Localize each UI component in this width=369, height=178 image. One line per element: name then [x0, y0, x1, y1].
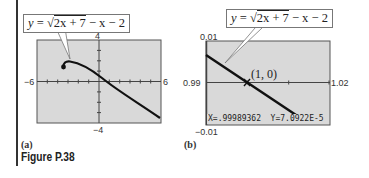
ymin-label-b: −0.01 [195, 127, 218, 137]
panel-label-b: (b) [184, 139, 196, 150]
equation-callout-b: y = √2x + 7 − x − 2 [226, 9, 333, 28]
figure-caption: Figure P.38 [21, 150, 75, 164]
eq-radicand: 2x + 7 [54, 15, 86, 30]
panel-label-a: (a) [21, 139, 33, 150]
eq-lhs: y [28, 16, 34, 30]
eq-lhs: y [231, 11, 237, 25]
eq-equals: = [37, 16, 44, 30]
ymax-label-a: 4 [95, 31, 100, 41]
point-label: (1, 0) [251, 67, 277, 82]
xmin-label-b: 0.99 [183, 78, 201, 88]
trace-readout: X=.99989362 Y=7.0922E-5 [208, 114, 324, 124]
equation-callout-a: y = √2x + 7 − x − 2 [23, 14, 130, 33]
eq-equals: = [240, 11, 247, 25]
eq-tail: − x − 2 [292, 11, 328, 25]
ymax-label-b: 0.01 [200, 32, 218, 42]
eq-radicand: 2x + 7 [257, 10, 289, 25]
xmax-label-a: 6 [163, 77, 168, 87]
xmin-label-a: −6 [24, 77, 34, 87]
sqrt-symbol: √ [47, 16, 54, 30]
graph-a [37, 28, 161, 123]
eq-tail: − x − 2 [89, 16, 125, 30]
ymin-label-a: −4 [93, 125, 103, 135]
sqrt-symbol: √ [250, 11, 257, 25]
xmax-label-b: 1.02 [331, 78, 349, 88]
